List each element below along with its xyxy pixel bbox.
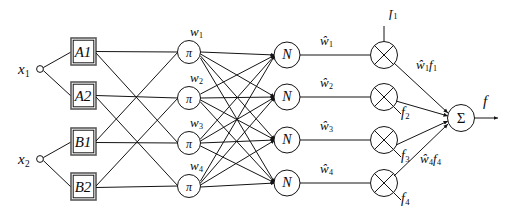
edges-rules-to-norm: [201, 52, 276, 187]
membership-box-A2: [71, 82, 96, 109]
norm-node-N2: [274, 84, 300, 110]
input-terminal-x2: [37, 156, 44, 163]
norm-node-N1: [274, 42, 300, 68]
edges-norm-to-product: [300, 55, 370, 183]
norm-node-N3: [274, 127, 300, 153]
anfis-diagram-canvas: x1 x2 A1 A2 B1 B2 π π π π w1 w2 w3 w4 N …: [0, 0, 507, 221]
top-crop-band: [0, 0, 507, 10]
rule-node-pi3: [178, 132, 201, 155]
membership-box-A1: [71, 38, 96, 65]
membership-box-B1: [71, 128, 96, 155]
rule-node-pi4: [178, 175, 201, 198]
rule-node-pi1: [178, 41, 201, 64]
product-node-mul2: [371, 84, 398, 111]
edges-x2-to-B: [43, 142, 71, 187]
edges-product-to-sum: [394, 63, 448, 176]
network-graph: [0, 0, 507, 221]
product-node-mul1: [371, 42, 398, 69]
edges-x1-to-A: [43, 52, 71, 96]
edges-membership-to-rules: [96, 52, 178, 188]
input-terminal-x1: [37, 66, 44, 73]
rule-node-pi2: [178, 87, 201, 110]
membership-box-B2: [71, 173, 96, 200]
norm-node-N4: [274, 170, 300, 196]
product-node-mul3: [371, 127, 398, 154]
sum-node: [448, 105, 475, 132]
product-node-mul4: [371, 170, 398, 197]
